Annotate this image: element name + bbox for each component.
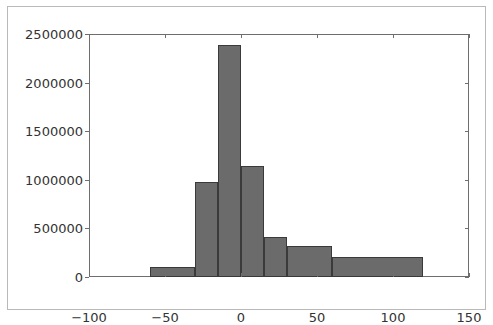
x-tick-label: 0	[237, 310, 245, 325]
x-tick-label: −50	[151, 310, 178, 325]
x-tick-label: 150	[457, 310, 482, 325]
y-tick-mark-right	[465, 277, 469, 278]
x-tick-label: −100	[71, 310, 107, 325]
x-tick-label: 100	[381, 310, 406, 325]
y-axis-tick-labels: 05000001000000150000020000002500000	[89, 34, 469, 277]
x-tick-mark	[469, 273, 470, 277]
y-tick-label: 1500000	[25, 124, 83, 139]
y-tick-label: 500000	[33, 221, 83, 236]
x-tick-mark-top	[469, 34, 470, 38]
y-tick-label: 1000000	[25, 172, 83, 187]
plot-area: −100−50050100150 05000001000000150000020…	[89, 34, 469, 277]
y-tick-label: 0	[75, 270, 83, 285]
y-tick-label: 2000000	[25, 75, 83, 90]
y-tick-mark	[85, 277, 89, 278]
y-tick-label: 2500000	[25, 27, 83, 42]
x-tick-label: 50	[309, 310, 326, 325]
figure-frame: −100−50050100150 05000001000000150000020…	[7, 6, 486, 310]
